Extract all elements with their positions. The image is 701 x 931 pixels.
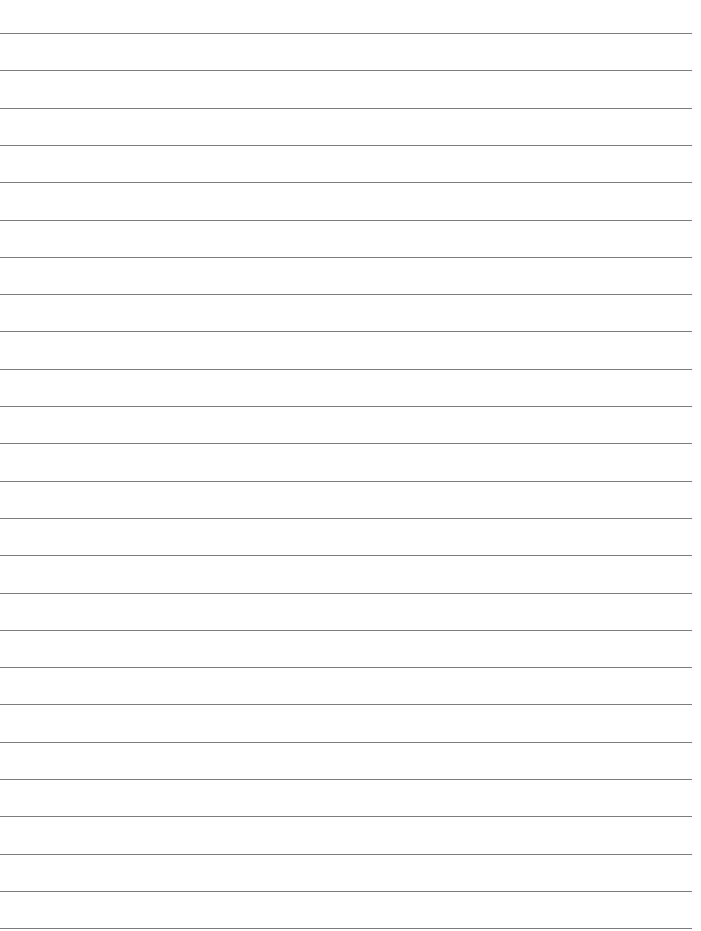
ruled-line: [0, 555, 692, 556]
ruled-line: [0, 518, 692, 519]
ruled-line: [0, 816, 692, 817]
ruled-line: [0, 630, 692, 631]
ruled-line: [0, 928, 692, 929]
ruled-line: [0, 593, 692, 594]
ruled-line: [0, 145, 692, 146]
ruled-line: [0, 406, 692, 407]
ruled-line: [0, 667, 692, 668]
ruled-line: [0, 257, 692, 258]
ruled-line: [0, 182, 692, 183]
ruled-line: [0, 443, 692, 444]
ruled-line: [0, 331, 692, 332]
ruled-line: [0, 704, 692, 705]
ruled-line: [0, 33, 692, 34]
ruled-line: [0, 220, 692, 221]
lined-paper-sheet: [0, 0, 701, 931]
ruled-line: [0, 854, 692, 855]
ruled-line: [0, 108, 692, 109]
ruled-line: [0, 779, 692, 780]
ruled-line: [0, 742, 692, 743]
ruled-line: [0, 891, 692, 892]
ruled-line: [0, 369, 692, 370]
ruled-line: [0, 294, 692, 295]
ruled-line: [0, 70, 692, 71]
ruled-line: [0, 481, 692, 482]
